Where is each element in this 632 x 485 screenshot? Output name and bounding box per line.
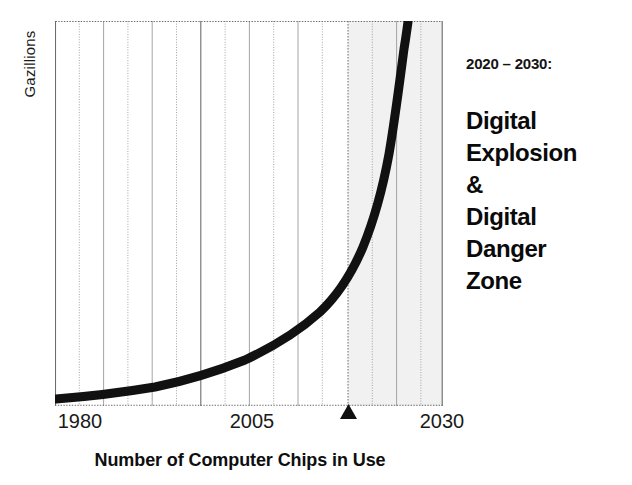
- x-axis-title: Number of Computer Chips in Use: [30, 450, 450, 471]
- x-tick-label-2005: 2005: [207, 410, 297, 433]
- shaded-danger-zone-region: [348, 21, 443, 406]
- chart-figure: Gazillions: [0, 0, 632, 485]
- annotation-headline-line-1: Digital: [466, 105, 626, 137]
- annotation-headline-line-4: Digital: [466, 201, 626, 233]
- y-axis-label: Gazillions: [21, 14, 41, 114]
- annotation-headline-line-5: Danger: [466, 233, 626, 265]
- annotation-headline-line-3: &: [466, 169, 626, 201]
- plot-area: [55, 21, 443, 406]
- annotation-block: 2020 – 2030: Digital Explosion & Digital…: [466, 55, 626, 297]
- annotation-headline-line-2: Explosion: [466, 137, 626, 169]
- annotation-headline: Digital Explosion & Digital Danger Zone: [466, 105, 626, 297]
- chart-canvas: [55, 21, 443, 406]
- annotation-period-label: 2020 – 2030:: [466, 55, 626, 72]
- x-tick-label-1980: 1980: [35, 410, 125, 433]
- x-tick-label-2030: 2030: [397, 410, 487, 433]
- annotation-headline-line-6: Zone: [466, 265, 626, 297]
- danger-zone-pointer-triangle-icon: [340, 404, 357, 419]
